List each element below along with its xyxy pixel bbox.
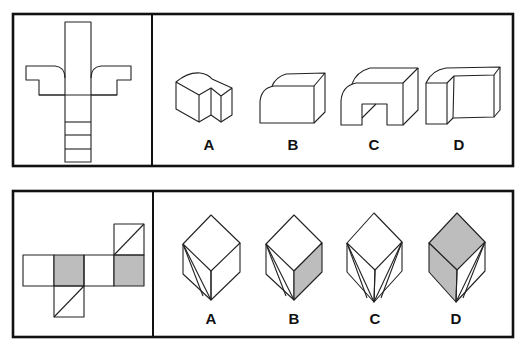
puzzle-1-frame [13,14,513,166]
option-a-label: A [204,136,215,153]
puzzle-1-option-c[interactable]: C [341,68,418,153]
puzzle-2: A B C D [13,191,513,337]
puzzle-1-option-a[interactable]: A [176,73,232,153]
option-d-label: D [454,136,465,153]
puzzle-1-option-d[interactable]: D [426,67,500,153]
option-b-label: B [288,136,299,153]
puzzle-2-option-b[interactable]: B [266,215,322,327]
puzzle-1-net [26,22,131,162]
option-c-label: C [369,136,380,153]
puzzle-2-option-c[interactable]: C [347,213,402,327]
option-c-label: C [370,310,381,327]
puzzle-2-option-a[interactable]: A [183,215,240,327]
puzzle-sheet: A B C D [0,0,527,348]
puzzle-2-net [23,224,144,317]
option-a-label: A [206,310,217,327]
puzzle-2-option-d[interactable]: D [429,213,485,327]
option-d-label: D [451,310,462,327]
puzzle-1: A B C D [13,14,513,166]
puzzle-1-option-b[interactable]: B [260,73,325,153]
option-b-label: B [289,310,300,327]
